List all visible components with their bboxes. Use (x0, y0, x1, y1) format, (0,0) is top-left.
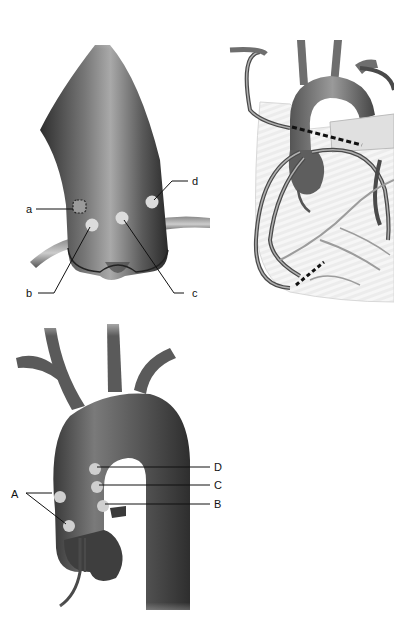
aortic-root-panel: a b c d (0, 0, 220, 300)
aortic-arch-panel: A D C B (0, 310, 240, 635)
label-c: c (192, 287, 198, 299)
label-a: a (26, 203, 33, 215)
heart-bypass-panel (220, 40, 394, 310)
marker-c (116, 212, 129, 225)
coronary-branch-left (30, 238, 74, 268)
marker-A2 (63, 520, 75, 532)
pulmonary-trunk (330, 114, 394, 152)
marker-b (86, 219, 99, 232)
label-b: b (26, 287, 32, 299)
label-A: A (11, 488, 19, 500)
marker-a (73, 200, 86, 213)
marker-A1 (54, 491, 66, 503)
label-C: C (214, 479, 222, 491)
label-B: B (214, 498, 221, 510)
aortic-arch-illustration: A D C B (0, 310, 240, 635)
marker-D (89, 463, 101, 475)
heart-bypass-illustration (220, 40, 394, 310)
label-d: d (192, 175, 198, 187)
marker-C (91, 481, 103, 493)
aortic-root-illustration: a b c d (0, 0, 220, 300)
label-D: D (214, 461, 222, 473)
marker-B (97, 500, 109, 512)
